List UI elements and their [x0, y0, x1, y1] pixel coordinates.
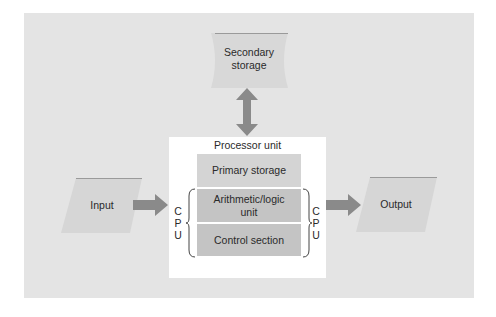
bidirectional-arrow-icon — [234, 88, 260, 138]
cpu-p: P — [311, 217, 321, 229]
cpu-u: U — [311, 229, 321, 241]
cpu-c: C — [311, 205, 321, 217]
alu-box: Arithmetic/logic unit — [197, 189, 301, 222]
processor-unit-label: Processor unit — [169, 139, 326, 152]
left-brace-icon — [185, 188, 197, 258]
input-label: Input — [72, 199, 132, 212]
cpu-label-right: C P U — [311, 205, 321, 241]
alu-label-line1: Arithmetic/logic — [213, 193, 284, 206]
secondary-storage-line1: Secondary — [214, 46, 284, 59]
cpu-label-left: C P U — [173, 205, 183, 241]
secondary-storage-label: Secondary storage — [214, 46, 284, 72]
cpu-u: U — [173, 229, 183, 241]
output-label: Output — [366, 198, 426, 211]
secondary-storage-line2: storage — [214, 59, 284, 72]
input-arrow-icon — [133, 193, 169, 217]
cpu-p: P — [173, 217, 183, 229]
primary-storage-box: Primary storage — [197, 154, 301, 187]
control-section-label: Control section — [214, 234, 284, 247]
alu-label-line2: unit — [213, 206, 284, 219]
cpu-c: C — [173, 205, 183, 217]
control-section-box: Control section — [197, 224, 301, 256]
primary-storage-label: Primary storage — [212, 164, 286, 177]
